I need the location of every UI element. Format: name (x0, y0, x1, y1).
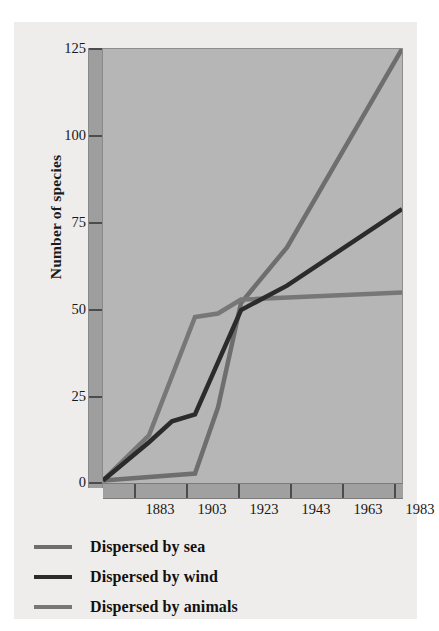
y-tick-label-75: 75 (44, 214, 86, 231)
x-axis-band (103, 483, 403, 499)
x-tick-label-1943: 1943 (286, 501, 346, 518)
y-tick-mark-100 (89, 135, 102, 137)
y-tick-label-0: 0 (44, 474, 86, 491)
y-tick-mark-50 (89, 309, 102, 311)
x-tick-label-1983: 1983 (390, 501, 439, 518)
legend-item-wind: Dispersed by wind (30, 562, 410, 592)
legend-swatch-wind-icon (34, 575, 72, 579)
legend-item-sea: Dispersed by sea (30, 532, 410, 562)
y-axis-band (88, 48, 103, 488)
legend-swatch-animals-icon (34, 605, 72, 609)
chart-figure: Number of species 125 100 75 50 25 0 (14, 22, 417, 619)
x-tick-label-1883: 1883 (130, 501, 190, 518)
y-axis-tick-labels: 125 100 75 50 25 0 (40, 22, 86, 619)
y-tick-label-25: 25 (44, 388, 86, 405)
y-tick-mark-25 (89, 396, 102, 398)
x-tick-mark-3 (238, 484, 240, 498)
y-tick-mark-75 (89, 222, 102, 224)
plot-area (103, 48, 403, 484)
x-tick-mark-5 (342, 484, 344, 498)
x-tick-mark-6 (394, 484, 396, 498)
legend-item-animals: Dispersed by animals (30, 592, 410, 622)
series-canvas (103, 49, 402, 484)
y-tick-mark-125 (89, 48, 102, 50)
legend-label-animals: Dispersed by animals (90, 598, 238, 616)
legend-label-wind: Dispersed by wind (90, 568, 218, 586)
legend-swatch-sea-icon (34, 545, 72, 549)
x-tick-mark-2 (186, 484, 188, 498)
x-tick-mark-4 (290, 484, 292, 498)
y-tick-mark-0 (89, 482, 102, 484)
series-line-dispersed-by-animals (103, 293, 402, 481)
series-line-dispersed-by-wind (103, 209, 402, 480)
x-tick-label-1963: 1963 (338, 501, 398, 518)
x-tick-label-1903: 1903 (182, 501, 242, 518)
x-axis-tick-labels: 1883 1903 1923 1943 1963 1983 (103, 501, 403, 523)
x-tick-mark-1 (134, 484, 136, 498)
legend-label-sea: Dispersed by sea (90, 538, 205, 556)
series-line-dispersed-by-sea (103, 49, 402, 481)
y-tick-label-50: 50 (44, 301, 86, 318)
chart-legend: Dispersed by sea Dispersed by wind Dispe… (30, 532, 410, 622)
y-tick-label-125: 125 (44, 40, 86, 57)
y-tick-label-100: 100 (44, 127, 86, 144)
x-tick-label-1923: 1923 (234, 501, 294, 518)
